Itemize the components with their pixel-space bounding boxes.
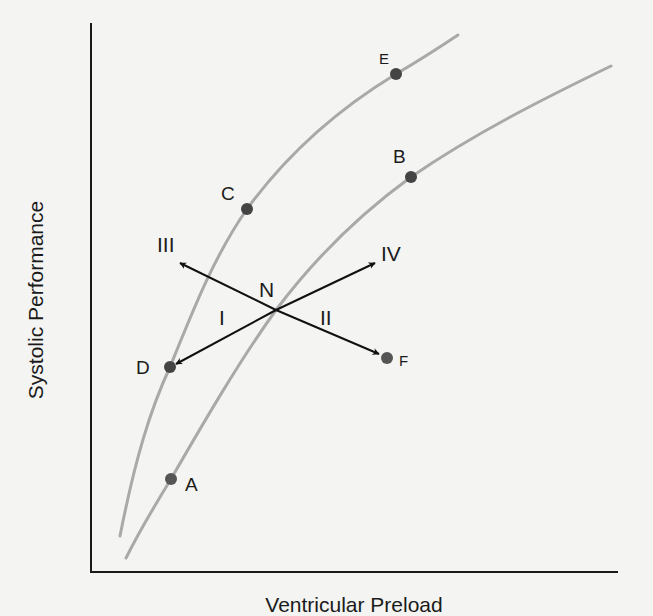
label-I: I bbox=[219, 307, 225, 328]
label-F: F bbox=[399, 353, 408, 368]
frank-starling-diagram: E C B D A F N III IV I II Systolic Perfo… bbox=[0, 0, 653, 616]
lower-curve bbox=[126, 66, 611, 558]
label-III: III bbox=[157, 234, 175, 255]
label-A: A bbox=[185, 475, 198, 494]
point-C bbox=[241, 203, 253, 215]
point-B bbox=[405, 171, 417, 183]
label-II: II bbox=[320, 307, 332, 328]
point-A bbox=[165, 473, 177, 485]
label-B: B bbox=[393, 147, 406, 166]
point-E bbox=[390, 68, 402, 80]
point-F bbox=[381, 352, 393, 364]
label-C: C bbox=[221, 184, 235, 203]
x-axis-title: Ventricular Preload bbox=[265, 593, 442, 616]
label-D: D bbox=[136, 358, 150, 377]
label-IV: IV bbox=[381, 243, 401, 264]
arrow-IV bbox=[276, 263, 375, 310]
y-axis-title: Systolic Performance bbox=[24, 201, 48, 399]
upper-curve bbox=[120, 35, 458, 536]
label-N: N bbox=[259, 279, 274, 300]
label-E: E bbox=[379, 51, 389, 66]
point-D bbox=[164, 361, 176, 373]
